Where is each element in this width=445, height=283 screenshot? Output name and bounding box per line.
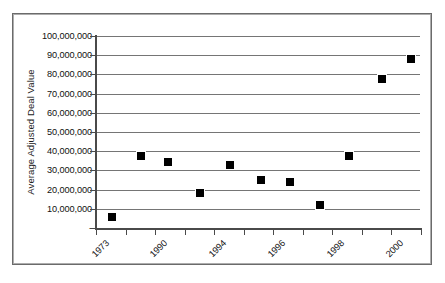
x-axis-tick-mark bbox=[126, 228, 127, 235]
y-axis-tick-label: 80,000,000 bbox=[28, 69, 92, 79]
data-point-marker bbox=[163, 157, 173, 167]
gridline bbox=[96, 94, 420, 95]
x-axis-tick-mark bbox=[214, 228, 215, 235]
y-axis-tick-label: 70,000,000 bbox=[28, 89, 92, 99]
y-axis-tick-labels: 100,000,00090,000,00080,000,00070,000,00… bbox=[28, 0, 92, 283]
data-point-marker bbox=[406, 54, 416, 64]
y-axis-tick-label: 20,000,000 bbox=[28, 185, 92, 195]
x-axis-tick-mark bbox=[273, 228, 274, 235]
gridline bbox=[96, 209, 420, 210]
chart-figure: Average Adjusted Deal Value 100,000,0009… bbox=[0, 0, 445, 283]
x-axis-line bbox=[95, 228, 421, 230]
y-axis-tick-label: 50,000,000 bbox=[28, 127, 92, 137]
y-axis-tick-label: - bbox=[28, 223, 92, 233]
y-axis-tick-label: 90,000,000 bbox=[28, 50, 92, 60]
data-point-marker bbox=[344, 151, 354, 161]
data-point-marker bbox=[225, 160, 235, 170]
x-axis-tick-mark bbox=[244, 228, 245, 235]
x-axis-tick-mark bbox=[332, 228, 333, 235]
y-axis-line bbox=[95, 35, 97, 229]
data-point-marker bbox=[107, 212, 117, 222]
y-axis-tick-label: 100,000,000 bbox=[28, 31, 92, 41]
gridline bbox=[96, 55, 420, 56]
data-point-marker bbox=[377, 74, 387, 84]
x-axis-tick-mark bbox=[303, 228, 304, 235]
gridline bbox=[96, 170, 420, 171]
y-axis-tick-label: 60,000,000 bbox=[28, 108, 92, 118]
gridline bbox=[96, 36, 420, 37]
data-point-marker bbox=[136, 151, 146, 161]
data-point-marker bbox=[256, 175, 266, 185]
gridline bbox=[96, 74, 420, 75]
x-axis-tick-mark bbox=[155, 228, 156, 235]
gridline bbox=[96, 113, 420, 114]
data-point-marker bbox=[285, 177, 295, 187]
x-axis-tick-mark bbox=[96, 228, 97, 235]
gridline bbox=[96, 132, 420, 133]
y-axis-tick-label: 40,000,000 bbox=[28, 146, 92, 156]
y-axis-tick-label: 30,000,000 bbox=[28, 165, 92, 175]
y-axis-tick-label: 10,000,000 bbox=[28, 204, 92, 214]
plot-area bbox=[96, 36, 420, 228]
data-point-marker bbox=[315, 200, 325, 210]
gridline bbox=[96, 190, 420, 191]
x-axis-tick-mark bbox=[362, 228, 363, 235]
x-axis-tick-mark bbox=[185, 228, 186, 235]
data-point-marker bbox=[195, 188, 205, 198]
x-axis-tick-mark bbox=[391, 228, 392, 235]
x-axis-tick-mark bbox=[421, 228, 422, 235]
